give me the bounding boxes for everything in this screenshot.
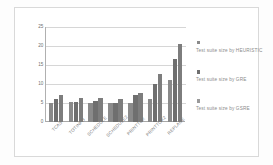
- legend-entry-2[interactable]: Test suite size by GSRE: [196, 99, 272, 112]
- bar-printtok-series-1[interactable]: [133, 95, 137, 122]
- x-label-slot: TOTINFO: [66, 124, 86, 164]
- bar-group-totinfo: [66, 28, 86, 122]
- bar-printtok2-series-0[interactable]: [148, 99, 152, 122]
- legend-label-1: Test suite size by GRE: [196, 76, 270, 83]
- legend-label-0: Test suite size by HEURISTIC: [196, 47, 270, 54]
- legend-entry-0[interactable]: Test suite size by HEURISTIC: [196, 41, 272, 54]
- bar-totinfo-series-1[interactable]: [74, 102, 78, 122]
- bar-tcas-series-1[interactable]: [54, 99, 58, 122]
- bar-group-printtok2: [145, 28, 165, 122]
- bar-group-printtok: [125, 28, 145, 122]
- legend-swatch-gsre: [197, 99, 200, 102]
- bar-group-schedule2: [106, 28, 126, 122]
- bar-schedule2-series-1[interactable]: [113, 103, 117, 122]
- figure-container: 0510152025 TCASTOTINFOSCHEDULESCHEDULE2P…: [0, 0, 273, 165]
- y-tick-label: 20: [38, 44, 43, 49]
- bar-totinfo-series-0[interactable]: [69, 102, 73, 122]
- bar-replace-series-2[interactable]: [178, 44, 182, 122]
- y-tick-label: 0: [41, 120, 44, 125]
- bar-replace-series-0[interactable]: [168, 80, 172, 122]
- chart-area: 0510152025: [45, 27, 185, 123]
- y-tick-label: 15: [38, 63, 43, 68]
- bar-group-schedule: [86, 28, 106, 122]
- legend-swatch-gre: [197, 70, 200, 73]
- y-tick-label: 5: [41, 101, 44, 106]
- chart-legend: Test suite size by HEURISTICTest suite s…: [196, 41, 272, 129]
- x-label-slot: PRINTTOK: [125, 124, 145, 164]
- bar-printtok2-series-2[interactable]: [158, 74, 162, 122]
- bar-printtok-series-0[interactable]: [128, 103, 132, 122]
- x-label-slot: PRINTTOK2: [145, 124, 165, 164]
- bar-replace-series-1[interactable]: [173, 59, 177, 122]
- bar-tcas-series-2[interactable]: [59, 95, 63, 122]
- x-label-slot: TCAS: [46, 124, 66, 164]
- bar-group-replace: [165, 28, 185, 122]
- y-tick-label: 10: [38, 82, 43, 87]
- x-axis-labels: TCASTOTINFOSCHEDULESCHEDULE2PRINTTOKPRIN…: [46, 124, 185, 164]
- bar-tcas-series-0[interactable]: [49, 103, 53, 122]
- bar-schedule-series-1[interactable]: [93, 101, 97, 122]
- bar-group-tcas: [46, 28, 66, 122]
- x-label-slot: SCHEDULE2: [106, 124, 126, 164]
- x-label-slot: REPLACE: [165, 124, 185, 164]
- legend-swatch-heuristic: [197, 41, 200, 44]
- chart-plate: 0510152025 TCASTOTINFOSCHEDULESCHEDULE2P…: [14, 7, 259, 157]
- bar-series-container: [46, 28, 185, 122]
- bar-schedule2-series-0[interactable]: [108, 103, 112, 122]
- bar-schedule-series-0[interactable]: [88, 103, 92, 122]
- legend-entry-1[interactable]: Test suite size by GRE: [196, 70, 272, 83]
- bar-printtok2-series-1[interactable]: [153, 84, 157, 122]
- y-tick-label: 25: [38, 25, 43, 30]
- x-label-slot: SCHEDULE: [86, 124, 106, 164]
- legend-label-2: Test suite size by GSRE: [196, 105, 270, 112]
